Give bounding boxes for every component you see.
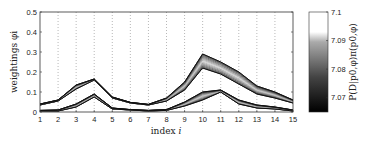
svg-text:7.09: 7.09: [331, 36, 346, 45]
svg-text:8: 8: [164, 115, 168, 124]
svg-text:10: 10: [198, 115, 206, 124]
svg-text:0: 0: [33, 108, 37, 117]
svg-text:15: 15: [289, 115, 297, 124]
colorbar: [309, 12, 328, 112]
svg-text:7: 7: [146, 115, 150, 124]
svg-text:0.4: 0.4: [27, 28, 37, 37]
svg-text:12: 12: [235, 115, 243, 124]
svg-text:5: 5: [110, 115, 114, 124]
svg-text:6: 6: [128, 115, 132, 124]
svg-text:14: 14: [271, 115, 279, 124]
svg-text:0.2: 0.2: [27, 68, 37, 77]
colorbar-ticks: 7.077.087.097.1: [326, 8, 346, 103]
svg-text:0.1: 0.1: [27, 88, 37, 97]
colorbar-label: P(D|p0,φ)π(p0,φ): [348, 23, 359, 101]
svg-text:11: 11: [217, 115, 225, 124]
svg-text:1: 1: [38, 115, 42, 124]
y-axis-label: weightings φi: [9, 31, 19, 93]
svg-text:7.1: 7.1: [331, 8, 341, 17]
svg-text:7.08: 7.08: [331, 65, 346, 74]
svg-text:13: 13: [253, 115, 261, 124]
weightings-chart: 00.10.20.30.40.5 123456789101112131415 i…: [0, 0, 368, 144]
svg-text:7.07: 7.07: [331, 93, 346, 102]
svg-text:9: 9: [182, 115, 186, 124]
svg-text:0.3: 0.3: [27, 48, 37, 57]
svg-text:3: 3: [74, 115, 78, 124]
svg-text:0.5: 0.5: [27, 8, 37, 17]
svg-text:2: 2: [56, 115, 60, 124]
svg-text:4: 4: [92, 115, 96, 124]
x-axis-label: index i: [151, 126, 182, 136]
